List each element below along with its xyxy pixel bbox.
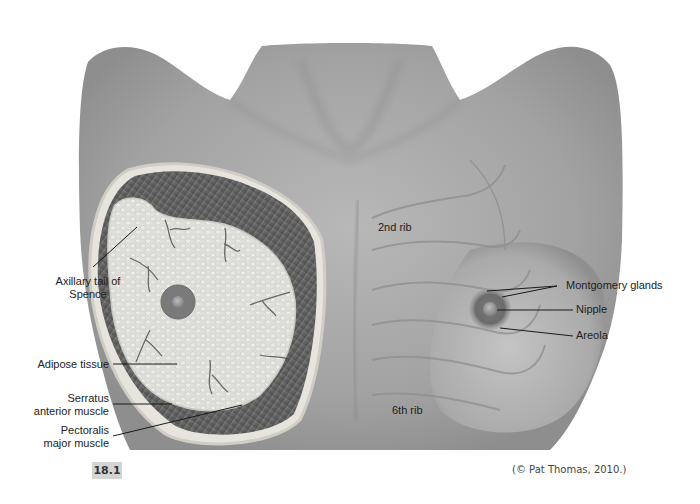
label-serratus-line1: Serratus [0, 392, 109, 405]
left-nipple [172, 296, 184, 308]
label-nipple: Nipple [576, 303, 607, 316]
label-pectoralis-line1: Pectoralis [0, 424, 109, 437]
label-montgomery-glands: Montgomery glands [566, 279, 663, 292]
label-pectoralis-major: Pectoralis major muscle [0, 424, 109, 450]
label-serratus-anterior: Serratus anterior muscle [0, 392, 109, 418]
label-areola: Areola [576, 329, 608, 342]
label-2nd-rib: 2nd rib [378, 221, 412, 234]
right-nipple [483, 302, 497, 316]
label-adipose-tissue: Adipose tissue [0, 358, 109, 371]
label-axillary-tail-line1: Axillary tail of [44, 275, 132, 288]
figure-number-badge: 18.1 [92, 462, 122, 479]
label-pectoralis-line2: major muscle [0, 437, 109, 450]
label-axillary-tail-line2: Spence [44, 288, 132, 301]
label-6th-rib: 6th rib [392, 404, 423, 417]
figure-credit: (© Pat Thomas, 2010.) [512, 464, 626, 475]
label-axillary-tail: Axillary tail of Spence [44, 275, 132, 301]
label-serratus-line2: anterior muscle [0, 405, 109, 418]
